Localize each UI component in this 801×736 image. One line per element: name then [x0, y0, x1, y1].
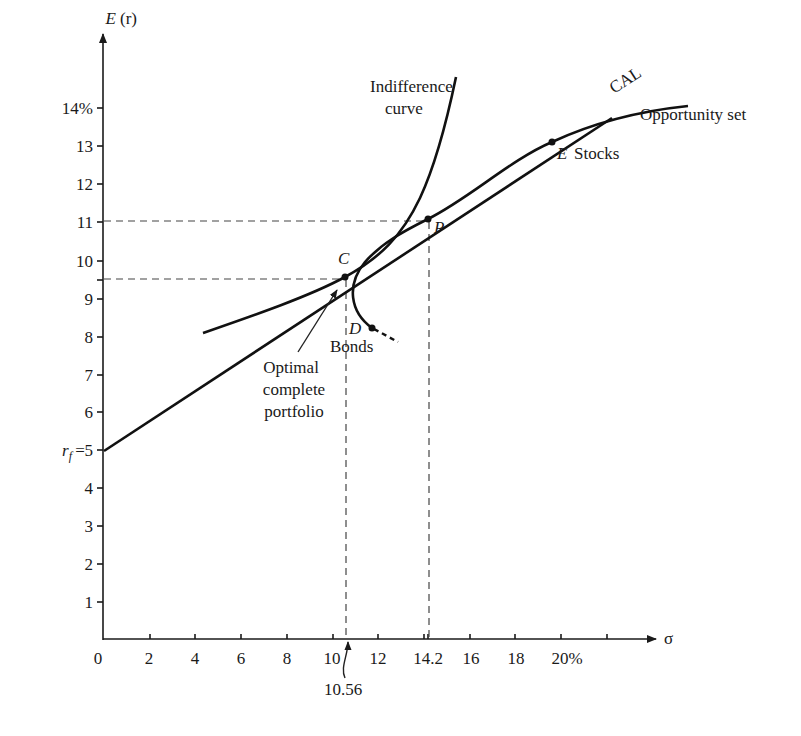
optimal-label-line3: portfolio — [264, 402, 324, 421]
svg-text:6: 6 — [85, 403, 94, 422]
svg-text:9: 9 — [85, 290, 94, 309]
rf-label: rf — [62, 441, 74, 463]
point-p — [425, 216, 432, 223]
e-point-label: E — [556, 144, 568, 163]
svg-text:20%: 20% — [551, 649, 582, 668]
risk-return-chart: E (r) σ 1 2 3 4 5 rf = 6 7 8 9 10 11 12 … — [0, 0, 801, 736]
svg-text:12: 12 — [370, 649, 387, 668]
svg-text:16: 16 — [463, 649, 480, 668]
optimal-label-line1: Optimal — [263, 358, 319, 377]
y-tick-labels: 1 2 3 4 5 rf = 6 7 8 9 10 11 12 13 14% — [62, 99, 94, 612]
x-tick-labels: 0 2 4 6 8 10 12 14.2 16 18 20% — [94, 649, 583, 668]
svg-text:2: 2 — [85, 555, 94, 574]
x-callout-label: 10.56 — [324, 680, 362, 699]
bonds-label: Bonds — [330, 337, 373, 356]
svg-text:3: 3 — [85, 517, 94, 536]
svg-text:6: 6 — [237, 649, 246, 668]
x-axis-title: σ — [664, 629, 673, 648]
y-axis-title-main: E — [105, 9, 117, 28]
point-d — [369, 325, 376, 332]
svg-text:7: 7 — [85, 366, 94, 385]
svg-text:1: 1 — [85, 593, 94, 612]
indifference-label-line2: curve — [385, 99, 423, 118]
svg-text:=: = — [75, 441, 85, 460]
svg-text:12: 12 — [76, 175, 93, 194]
opportunity-set-curve — [353, 106, 688, 328]
point-e — [549, 139, 556, 146]
p-point-label: P — [433, 218, 444, 237]
svg-text:8: 8 — [283, 649, 292, 668]
point-c — [342, 274, 349, 281]
indifference-label-line1: Indifference — [370, 77, 453, 96]
optimal-label-line2: complete — [263, 380, 325, 399]
opportunity-set-extension — [374, 329, 398, 342]
y-axis-title-paren: (r) — [120, 9, 137, 28]
svg-text:18: 18 — [508, 649, 525, 668]
svg-text:4: 4 — [85, 479, 94, 498]
c-point-label: C — [338, 249, 350, 268]
svg-text:0: 0 — [94, 649, 103, 668]
svg-text:4: 4 — [191, 649, 200, 668]
svg-text:5: 5 — [85, 441, 94, 460]
d-point-label: D — [348, 319, 362, 338]
opportunity-set-label: Opportunity set — [640, 105, 747, 124]
svg-text:2: 2 — [145, 649, 154, 668]
x-callout-arrow — [343, 642, 348, 678]
stocks-label: Stocks — [574, 144, 619, 163]
svg-text:13: 13 — [76, 137, 93, 156]
cal-label: CAL — [606, 63, 645, 97]
svg-text:14%: 14% — [62, 99, 93, 118]
svg-text:11: 11 — [77, 213, 93, 232]
cal-line — [104, 118, 612, 451]
svg-text:14.2: 14.2 — [413, 649, 443, 668]
svg-text:10: 10 — [76, 252, 93, 271]
svg-text:10: 10 — [324, 649, 341, 668]
y-ticks — [97, 108, 103, 602]
svg-text:8: 8 — [85, 328, 94, 347]
